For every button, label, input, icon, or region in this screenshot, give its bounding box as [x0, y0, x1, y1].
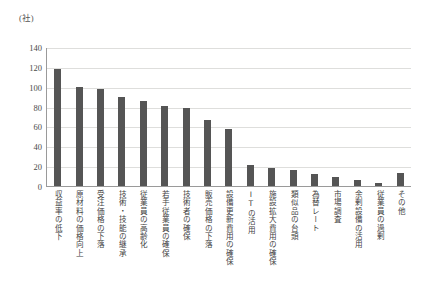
bar [247, 165, 254, 186]
bar [140, 101, 147, 186]
bar-slot [197, 48, 218, 186]
x-axis-label: 設備更新費用の確保 [224, 190, 233, 266]
y-tick-label: 140 [16, 44, 42, 52]
x-label-slot: 販売価格の下落 [196, 190, 217, 295]
x-axis-label: 従業員の過剰 [374, 190, 383, 240]
y-tick-label: 60 [16, 123, 42, 131]
x-axis-label: 原材料の価格向上 [74, 190, 83, 257]
x-label-slot: 受注価格の下落 [89, 190, 110, 295]
bar-slot [47, 48, 68, 186]
bar [375, 183, 382, 186]
bar-slot [304, 48, 325, 186]
x-label-slot: 余剰設備の活用 [347, 190, 368, 295]
y-axis-tick-labels: 140120100806040200 [0, 48, 44, 187]
bar [397, 173, 404, 186]
y-tick-label: 20 [16, 163, 42, 171]
bar-slot [133, 48, 154, 186]
bar-slot [261, 48, 282, 186]
bar [290, 170, 297, 186]
x-axis-label: 若手従業員の確保 [160, 190, 169, 257]
x-axis-label: 市場調査 [332, 190, 341, 224]
bar-slot [390, 48, 411, 186]
bar [118, 97, 125, 186]
bar [268, 168, 275, 186]
bar-slot [368, 48, 389, 186]
bar-series [47, 48, 411, 186]
x-label-slot: 設備更新費用の確保 [218, 190, 239, 295]
x-label-slot: 従業員の高齢化 [132, 190, 153, 295]
bar-slot [68, 48, 89, 186]
x-label-slot: ITの活用 [239, 190, 260, 295]
x-axis-label: 従業員の高齢化 [138, 190, 147, 249]
y-tick-label: 100 [16, 84, 42, 92]
x-axis-label: 収益率の低下 [52, 190, 61, 240]
y-axis-unit-label: (社) [19, 11, 34, 23]
bar-slot [218, 48, 239, 186]
x-axis-label: 類似品の台頭 [289, 190, 298, 240]
bar [97, 89, 104, 186]
bar [332, 177, 339, 186]
x-axis-category-labels: 収益率の低下原材料の価格向上受注価格の下落技術・技能の継承従業員の高齢化若手従業… [46, 190, 411, 295]
x-label-slot: 施設拡大費用の確保 [261, 190, 282, 295]
bar [161, 106, 168, 186]
bar-slot [154, 48, 175, 186]
x-axis-label: 技術・技能の継承 [117, 190, 126, 257]
x-axis-label: 為替レート [310, 190, 319, 232]
bar-slot [175, 48, 196, 186]
bar [204, 120, 211, 186]
x-axis-label: ITの活用 [246, 190, 255, 234]
bar-slot [111, 48, 132, 186]
bar [311, 174, 318, 186]
x-label-slot: 原材料の価格向上 [67, 190, 88, 295]
x-label-slot: 従業員の過剰 [368, 190, 389, 295]
x-axis-label: 販売価格の下落 [203, 190, 212, 249]
x-label-slot: 市場調査 [325, 190, 346, 295]
x-axis-label: 受注価格の下落 [95, 190, 104, 249]
x-label-slot: 収益率の低下 [46, 190, 67, 295]
bar-slot [347, 48, 368, 186]
y-tick-label: 80 [16, 104, 42, 112]
x-label-slot: 為替レート [304, 190, 325, 295]
x-label-slot: 類似品の台頭 [282, 190, 303, 295]
bar-slot [240, 48, 261, 186]
x-label-slot: 若手従業員の確保 [153, 190, 174, 295]
x-axis-label: 施設拡大費用の確保 [267, 190, 276, 266]
x-label-slot: その他 [390, 190, 411, 295]
y-tick-label: 120 [16, 64, 42, 72]
bar-slot [325, 48, 346, 186]
bar [54, 69, 61, 186]
bar [76, 87, 83, 186]
x-axis-label: その他 [396, 190, 405, 215]
bar-chart: (社) 140120100806040200 収益率の低下原材料の価格向上受注価… [0, 0, 423, 299]
y-tick-label: 40 [16, 143, 42, 151]
bar [183, 108, 190, 186]
x-axis-label: 技術者の確保 [181, 190, 190, 240]
plot-area [46, 48, 411, 187]
x-label-slot: 技術・技能の継承 [110, 190, 131, 295]
bar-slot [90, 48, 111, 186]
bar [354, 180, 361, 186]
bar [225, 129, 232, 186]
bar-slot [282, 48, 303, 186]
x-axis-label: 余剰設備の活用 [353, 190, 362, 249]
y-tick-label: 0 [16, 183, 42, 191]
x-label-slot: 技術者の確保 [175, 190, 196, 295]
